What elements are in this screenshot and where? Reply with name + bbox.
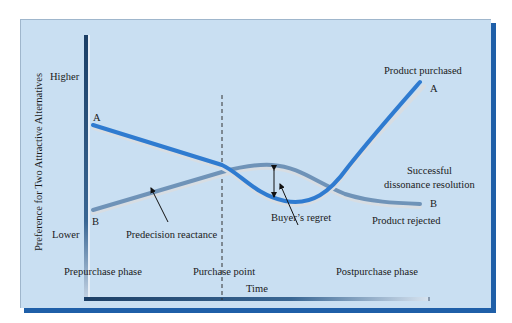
y-axis-label: Preference for Two Attractive Alternativ…: [34, 73, 45, 251]
predecision-reactance-label: Predecision reactance: [126, 230, 217, 241]
y-tick-lower: Lower: [52, 230, 79, 241]
series-b-start-label: B: [92, 217, 99, 228]
product-purchased-label: Product purchased: [384, 66, 462, 77]
x-tick-prepurchase: Prepurchase phase: [64, 267, 142, 278]
y-tick-higher: Higher: [50, 72, 79, 83]
y-axis: [84, 35, 90, 301]
series-a-end-label: A: [430, 84, 438, 95]
series-b-end-label: B: [430, 199, 437, 210]
series-a-start-label: A: [93, 113, 101, 124]
product-rejected-label: Product rejected: [372, 216, 441, 227]
x-tick-postpurchase: Postpurchase phase: [336, 267, 418, 278]
buyers-regret-label: Buyer’s regret: [271, 213, 331, 224]
x-axis: [84, 297, 430, 301]
successful-label-line1: Successful: [407, 166, 452, 177]
curve-a: [93, 82, 424, 205]
successful-label-line2: dissonance resolution: [384, 180, 475, 191]
x-axis-label: Time: [246, 284, 268, 295]
x-tick-purchase-point: Purchase point: [193, 267, 255, 278]
